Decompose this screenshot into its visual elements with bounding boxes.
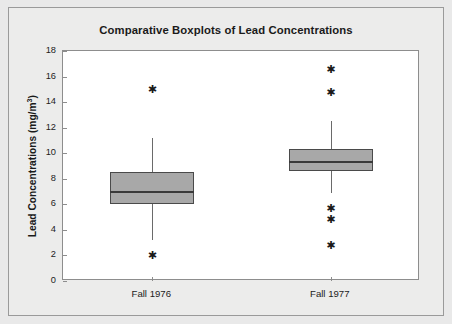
whisker-upper (331, 121, 332, 149)
y-axis-tick-label: 0 (36, 275, 56, 285)
chart-title: Comparative Boxplots of Lead Concentrati… (8, 24, 444, 36)
y-axis-tick-label: 4 (36, 224, 56, 234)
y-axis-tick-label: 18 (36, 45, 56, 55)
y-axis-tick-label: 6 (36, 198, 56, 208)
plot-area: ✱✱✱✱✱✱✱ (62, 50, 419, 280)
y-axis-tick-label: 14 (36, 96, 56, 106)
x-axis-tick-label: Fall 1977 (310, 288, 349, 299)
y-axis-tick-label: 2 (36, 249, 56, 259)
y-axis-tick-label: 12 (36, 122, 56, 132)
boxplot-2: ✱✱✱✱✱ (63, 51, 418, 279)
figure-container: Comparative Boxplots of Lead Concentrati… (0, 0, 452, 324)
outlier-marker: ✱ (326, 63, 335, 74)
median-line (289, 161, 373, 163)
whisker-lower (331, 171, 332, 193)
outlier-marker: ✱ (326, 239, 335, 250)
y-axis-title-exponent: 3 (26, 99, 33, 103)
outlier-marker: ✱ (326, 214, 335, 225)
y-axis-tick-mark (63, 281, 67, 282)
outlier-marker: ✱ (326, 86, 335, 97)
x-axis-tick-label: Fall 1976 (132, 288, 171, 299)
y-axis-tick-label: 8 (36, 173, 56, 183)
y-axis-tick-label: 16 (36, 71, 56, 81)
y-axis-tick-label: 10 (36, 147, 56, 157)
